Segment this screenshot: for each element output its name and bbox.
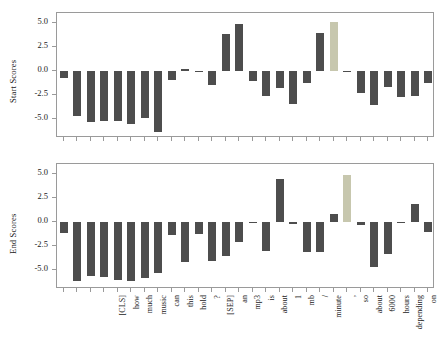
bar xyxy=(73,222,81,282)
y-axis-label-end-scores: End Scores xyxy=(8,213,18,253)
bar xyxy=(127,71,135,124)
x-tick-mark xyxy=(103,137,104,141)
bar xyxy=(384,71,392,87)
bar xyxy=(316,33,324,71)
bar xyxy=(276,71,284,88)
bar xyxy=(73,71,81,116)
x-tick-mark xyxy=(333,288,334,292)
x-tick-mark xyxy=(171,137,172,141)
bar xyxy=(208,222,216,261)
x-tick-mark xyxy=(144,288,145,292)
x-tick-label: ? xyxy=(213,295,222,347)
bar xyxy=(397,71,405,97)
bars-layer xyxy=(57,13,433,136)
bar xyxy=(222,34,230,71)
bar xyxy=(262,222,270,251)
x-tick-mark xyxy=(157,288,158,292)
bar xyxy=(343,175,351,222)
bar xyxy=(330,22,338,71)
bar xyxy=(141,222,149,279)
y-tick-label: 2.5 xyxy=(12,40,48,50)
x-tick-label: [SEP] xyxy=(226,295,235,347)
x-tick-label: an xyxy=(240,295,249,347)
x-tick-label: mb xyxy=(307,295,316,347)
bar xyxy=(303,71,311,84)
x-tick-label: about xyxy=(280,295,289,347)
x-tick-mark xyxy=(265,137,266,141)
x-tick-label: / xyxy=(321,295,330,347)
bar xyxy=(370,71,378,106)
x-tick-mark xyxy=(63,137,64,141)
x-tick-label: this xyxy=(186,295,195,347)
bar xyxy=(154,71,162,133)
x-tick-label: music xyxy=(159,295,168,347)
y-tick-mark xyxy=(52,269,56,270)
bar xyxy=(195,222,203,235)
x-tick-label: so xyxy=(361,295,370,347)
x-tick-mark xyxy=(238,137,239,141)
bar xyxy=(249,71,257,82)
x-tick-mark xyxy=(427,288,428,292)
x-tick-mark xyxy=(427,137,428,141)
bar xyxy=(316,222,324,253)
plot-area-start-scores xyxy=(56,12,434,137)
x-tick-label: minute xyxy=(334,295,343,347)
bar xyxy=(357,222,365,225)
x-tick-mark xyxy=(211,288,212,292)
bar xyxy=(181,222,189,262)
bar xyxy=(343,71,351,72)
x-tick-mark xyxy=(279,137,280,141)
x-tick-mark xyxy=(198,288,199,292)
bar xyxy=(357,71,365,93)
y-tick-mark xyxy=(52,22,56,23)
x-tick-mark xyxy=(157,137,158,141)
x-tick-mark xyxy=(63,288,64,292)
x-tick-label: mp3 xyxy=(253,295,262,347)
x-tick-mark xyxy=(130,137,131,141)
x-tick-mark xyxy=(400,137,401,141)
x-tick-mark xyxy=(103,288,104,292)
bar xyxy=(384,222,392,255)
x-tick-mark xyxy=(373,137,374,141)
x-tick-mark xyxy=(238,288,239,292)
x-tick-mark xyxy=(184,137,185,141)
x-tick-mark xyxy=(225,288,226,292)
x-tick-label: much xyxy=(145,295,154,347)
x-tick-mark xyxy=(333,137,334,141)
y-axis-label-start-scores: Start Scores xyxy=(8,59,18,102)
bar xyxy=(114,222,122,281)
x-tick-mark xyxy=(292,137,293,141)
x-tick-mark xyxy=(184,288,185,292)
bar xyxy=(411,204,419,221)
bar xyxy=(60,71,68,79)
x-tick-label: on xyxy=(429,295,438,347)
x-tick-mark xyxy=(252,137,253,141)
x-tick-label: hold xyxy=(199,295,208,347)
y-tick-label: -5.0 xyxy=(12,263,48,273)
x-tick-mark xyxy=(130,288,131,292)
bar xyxy=(141,71,149,118)
bar-chart-figure: 5.02.50.0-2.5-5.0Start Scores5.02.50.0-2… xyxy=(0,0,439,347)
x-tick-mark xyxy=(387,137,388,141)
x-tick-mark xyxy=(144,137,145,141)
x-tick-mark xyxy=(306,137,307,141)
x-tick-mark xyxy=(90,137,91,141)
bar xyxy=(276,179,284,221)
x-tick-mark xyxy=(225,137,226,141)
bar xyxy=(100,71,108,121)
x-tick-mark xyxy=(319,288,320,292)
x-tick-mark xyxy=(414,137,415,141)
x-tick-mark xyxy=(400,288,401,292)
x-tick-mark xyxy=(252,288,253,292)
bar xyxy=(208,71,216,85)
bar xyxy=(168,71,176,81)
x-tick-label: about xyxy=(375,295,384,347)
bar xyxy=(60,222,68,234)
x-tick-mark xyxy=(360,137,361,141)
bar xyxy=(397,222,405,223)
x-tick-label: 1 xyxy=(294,295,303,347)
x-tick-mark xyxy=(198,137,199,141)
bars-layer xyxy=(57,164,433,287)
plot-area-end-scores xyxy=(56,163,434,288)
bar xyxy=(370,222,378,267)
